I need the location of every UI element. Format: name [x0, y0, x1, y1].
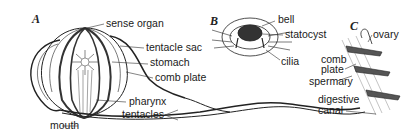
- label-plate: plate: [321, 64, 344, 75]
- label-comb-plate: comb plate: [155, 72, 206, 83]
- label-spermary: spermary: [309, 76, 353, 87]
- label-cilia: cilia: [281, 56, 299, 67]
- label-tentacles: tentacles: [122, 109, 164, 120]
- label-tentacle-sac: tentacle sac: [146, 42, 202, 53]
- label-bell: bell: [278, 14, 294, 25]
- label-pharynx: pharynx: [129, 96, 166, 107]
- panel-a-label: A: [32, 12, 40, 27]
- label-mouth: mouth: [50, 120, 79, 131]
- label-canal: canal: [318, 105, 343, 116]
- label-sense-organ: sense organ: [106, 18, 164, 29]
- panel-b-label: B: [210, 14, 218, 29]
- label-stomach: stomach: [150, 57, 190, 68]
- label-ovary: ovary: [373, 29, 399, 40]
- label-statocyst: statocyst: [285, 29, 326, 40]
- panel-c-label: C: [350, 19, 358, 34]
